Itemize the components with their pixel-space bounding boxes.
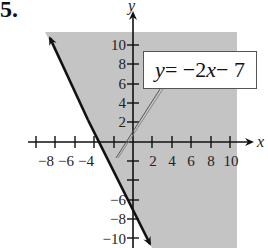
y-tick-label: 2 bbox=[119, 114, 127, 130]
callout-eq: = −2 bbox=[165, 57, 206, 83]
y-tick-label: −8 bbox=[110, 211, 126, 227]
equation-callout: y = −2x − 7 bbox=[143, 51, 257, 89]
x-tick-label: −4 bbox=[78, 153, 94, 169]
x-tick-label: −8 bbox=[38, 153, 54, 169]
y-tick-label: 6 bbox=[119, 76, 127, 92]
x-tick-label: 4 bbox=[168, 153, 176, 169]
callout-y: y bbox=[155, 57, 165, 83]
y-axis-label: y bbox=[126, 0, 136, 15]
graph-figure: 5. bbox=[0, 0, 268, 248]
x-tick-label: 6 bbox=[187, 153, 195, 169]
y-tick-label: 4 bbox=[119, 95, 127, 111]
callout-tail: − 7 bbox=[216, 57, 245, 83]
y-tick-label: 10 bbox=[111, 37, 126, 53]
coordinate-plane: −8 −6 −4 2 4 6 8 10 10 8 6 4 2 −6 −8 −10… bbox=[0, 0, 268, 248]
callout-x: x bbox=[206, 57, 216, 83]
x-axis-label: x bbox=[256, 133, 264, 150]
x-tick-label: 10 bbox=[224, 153, 239, 169]
x-tick-label: 8 bbox=[207, 153, 215, 169]
y-tick-label: −10 bbox=[103, 231, 126, 247]
x-tick-label: −6 bbox=[58, 153, 74, 169]
y-tick-label: 8 bbox=[119, 56, 127, 72]
x-tick-label: 2 bbox=[149, 153, 157, 169]
